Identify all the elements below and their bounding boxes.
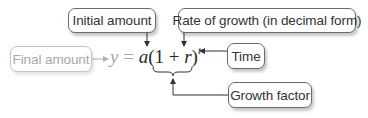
brace bbox=[153, 67, 192, 76]
eq-open: (1 + bbox=[148, 46, 184, 67]
eq-equals: = bbox=[118, 46, 138, 67]
eq-r: r bbox=[184, 46, 191, 67]
eq-t: t bbox=[198, 44, 201, 56]
eq-close: ) bbox=[192, 46, 198, 67]
eq-a: a bbox=[139, 46, 149, 67]
final-amount-label: Final amount bbox=[10, 46, 92, 72]
arrow-growth-factor bbox=[173, 79, 228, 95]
rate-of-growth-label: Rate of growth (in decimal form) bbox=[178, 8, 356, 33]
time-label: Time bbox=[227, 43, 265, 69]
exponential-growth-equation: y = a(1 + r)t bbox=[110, 46, 201, 68]
growth-factor-label: Growth factor bbox=[228, 82, 312, 108]
initial-amount-label: Initial amount bbox=[68, 8, 156, 33]
